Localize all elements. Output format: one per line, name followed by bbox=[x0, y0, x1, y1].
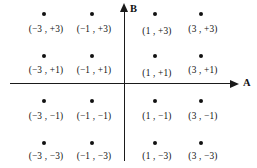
constellation-point bbox=[90, 12, 94, 16]
constellation-point-label: (−1 , −1) bbox=[77, 112, 112, 121]
constellation-point-label: (1 , +1) bbox=[142, 69, 171, 78]
constellation-point-label: (−1 , +3) bbox=[77, 25, 112, 34]
constellation-point bbox=[199, 54, 203, 58]
constellation-point bbox=[42, 99, 46, 103]
constellation-point-label: (1 , −1) bbox=[142, 112, 171, 121]
x-axis-arrow-icon bbox=[230, 80, 239, 88]
constellation-point bbox=[199, 99, 203, 103]
constellation-point bbox=[199, 12, 203, 16]
constellation-point bbox=[153, 12, 157, 16]
constellation-point-label: (3 , +3) bbox=[188, 25, 217, 34]
constellation-point-label: (3 , +1) bbox=[188, 66, 217, 75]
constellation-point bbox=[153, 54, 157, 58]
constellation-point bbox=[199, 141, 203, 145]
constellation-point bbox=[42, 141, 46, 145]
constellation-point-label: (3 , −1) bbox=[188, 112, 217, 121]
constellation-point-label: (1 , −3) bbox=[142, 152, 171, 161]
constellation-point-label: (−3 , −3) bbox=[29, 152, 64, 161]
constellation-point-label: (−1 , −3) bbox=[77, 152, 112, 161]
constellation-point-label: (−3 , −1) bbox=[29, 112, 64, 121]
constellation-point bbox=[153, 141, 157, 145]
constellation-point-label: (−1 , +1) bbox=[77, 66, 112, 75]
x-axis-label: A bbox=[243, 78, 251, 89]
constellation-point bbox=[90, 141, 94, 145]
constellation-point-label: (−3 , +3) bbox=[29, 25, 64, 34]
constellation-point bbox=[42, 12, 46, 16]
constellation-point bbox=[42, 54, 46, 58]
constellation-point-label: (−3 , +1) bbox=[29, 66, 64, 75]
constellation-diagram: A B (−3 , +3)(−1 , +3)(1 , +3)(3 , +3)(−… bbox=[0, 0, 257, 168]
constellation-point bbox=[90, 99, 94, 103]
y-axis-line bbox=[124, 6, 125, 161]
constellation-point bbox=[90, 54, 94, 58]
constellation-point-label: (1 , +3) bbox=[142, 27, 171, 36]
constellation-point bbox=[153, 99, 157, 103]
y-axis-arrow-icon bbox=[120, 3, 128, 12]
y-axis-label: B bbox=[130, 4, 137, 15]
constellation-point-label: (3 , −3) bbox=[188, 152, 217, 161]
